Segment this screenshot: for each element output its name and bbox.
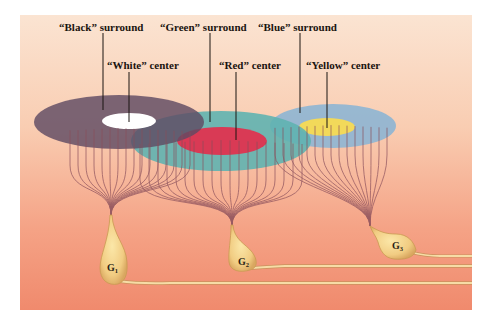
label-yellow-center: “Yellow” center [306, 59, 380, 71]
label-black-surround: “Black” surround [59, 21, 143, 33]
receptive-field-black-white [34, 95, 204, 149]
label-red-center: “Red” center [219, 59, 281, 71]
label-white-center: “White” center [107, 59, 179, 71]
label-blue-surround: “Blue” surround [258, 21, 337, 33]
label-green-surround: “Green” surround [160, 21, 247, 33]
receptive-field-diagram: G1 G2 G3 “Black” surround “Green” surrou… [0, 0, 489, 326]
